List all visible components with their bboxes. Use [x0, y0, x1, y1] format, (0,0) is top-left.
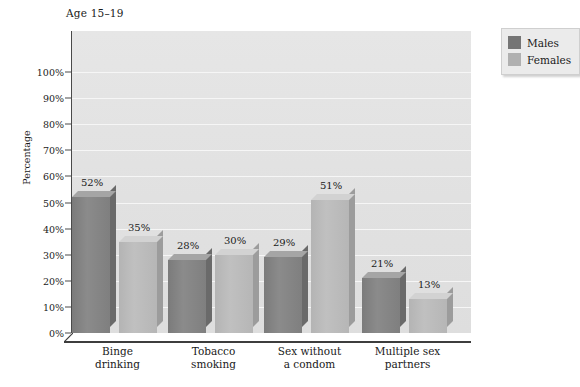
bar-top-face	[215, 249, 259, 255]
bar-males[interactable]: 29%	[264, 257, 302, 333]
bar-males[interactable]: 21%	[362, 278, 400, 333]
bar-females[interactable]: 30%	[215, 255, 253, 333]
bar-front-face	[215, 255, 253, 333]
axis-corner-bevel	[64, 333, 73, 342]
bar-value-label: 29%	[273, 237, 295, 248]
bar-top-face	[264, 251, 308, 257]
bar-value-label: 21%	[371, 258, 393, 269]
bar-value-label: 35%	[128, 222, 150, 233]
y-tick-label: 40%	[4, 223, 64, 234]
chart-legend: MalesFemales	[501, 28, 580, 75]
y-tick-label: 60%	[4, 171, 64, 182]
y-tick-label: 30%	[4, 249, 64, 260]
y-tick-mark	[65, 254, 72, 255]
y-tick-mark	[65, 202, 72, 203]
category-label: Binge drinking	[68, 345, 168, 370]
y-tick-mark	[65, 306, 72, 307]
bar-males[interactable]: 52%	[72, 197, 110, 333]
legend-item[interactable]: Males	[508, 34, 571, 51]
y-tick-mark	[65, 176, 72, 177]
bar-side-face	[253, 243, 259, 327]
bar-females[interactable]: 51%	[311, 200, 349, 333]
bar-front-face	[264, 257, 302, 333]
y-tick-label: 20%	[4, 275, 64, 286]
y-tick-mark	[65, 98, 72, 99]
bar-front-face	[409, 299, 447, 333]
bar-value-label: 13%	[418, 279, 440, 290]
bar-top-face	[311, 194, 355, 200]
y-tick-label: 10%	[4, 301, 64, 312]
y-tick-label: 100%	[4, 67, 64, 78]
bar-side-face	[349, 188, 355, 327]
y-tick-mark	[65, 228, 72, 229]
bar-value-label: 28%	[177, 240, 199, 251]
bar-front-face	[72, 197, 110, 333]
bar-front-face	[119, 242, 157, 333]
legend-label: Females	[527, 54, 571, 66]
bar-side-face	[206, 248, 212, 327]
bar-top-face	[409, 293, 453, 299]
legend-item[interactable]: Females	[508, 51, 571, 68]
y-tick-label: 0%	[4, 328, 64, 339]
bar-females[interactable]: 13%	[409, 299, 447, 333]
y-tick-label: 50%	[4, 197, 64, 208]
axis-baseline	[64, 341, 471, 343]
bar-value-label: 30%	[224, 235, 246, 246]
y-tick-mark	[65, 280, 72, 281]
bar-front-face	[311, 200, 349, 333]
bar-females[interactable]: 35%	[119, 242, 157, 333]
bar-value-label: 52%	[81, 177, 103, 188]
bar-front-face	[168, 260, 206, 333]
bar-top-face	[362, 272, 406, 278]
y-tick-label: 70%	[4, 145, 64, 156]
category-label: Tobacco smoking	[164, 345, 264, 370]
y-tick-label: 90%	[4, 93, 64, 104]
legend-label: Males	[527, 37, 559, 49]
legend-swatch-icon	[508, 36, 521, 49]
bar-value-label: 51%	[320, 180, 342, 191]
bar-side-face	[110, 185, 116, 327]
chart-subtitle: Age 15–19	[66, 7, 124, 19]
bar-top-face	[119, 236, 163, 242]
bar-side-face	[302, 245, 308, 327]
category-label: Sex without a condom	[260, 345, 360, 370]
legend-swatch-icon	[508, 53, 521, 66]
category-label: Multiple sex partners	[358, 345, 458, 370]
y-tick-mark	[65, 150, 72, 151]
y-tick-mark	[65, 72, 72, 73]
y-tick-mark	[65, 124, 72, 125]
bar-front-face	[362, 278, 400, 333]
bar-top-face	[168, 254, 212, 260]
bar-males[interactable]: 28%	[168, 260, 206, 333]
y-tick-label: 80%	[4, 119, 64, 130]
bar-side-face	[157, 230, 163, 327]
bar-top-face	[72, 191, 116, 197]
